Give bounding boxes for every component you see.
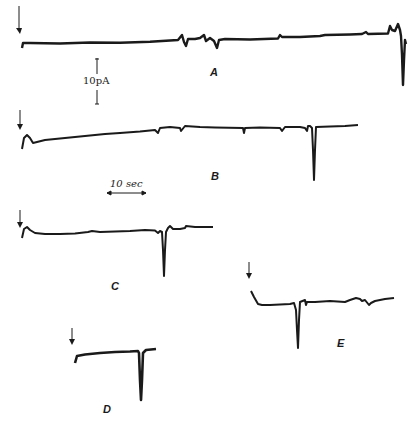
panel-label-d: D [103, 403, 111, 415]
trace-e [246, 262, 394, 348]
trace-c [17, 210, 213, 276]
time-scale-bar [107, 191, 146, 195]
trace-b [17, 110, 358, 180]
panel-label-e: E [337, 337, 344, 349]
trace-d [69, 328, 156, 400]
time-scale-label: 10 sec [110, 178, 143, 189]
current-scale-label: 10pA [83, 75, 109, 86]
panel-label-c: C [111, 280, 119, 292]
panel-label-b: B [211, 170, 219, 182]
figure-canvas [0, 0, 414, 426]
panel-label-a: A [210, 66, 218, 78]
